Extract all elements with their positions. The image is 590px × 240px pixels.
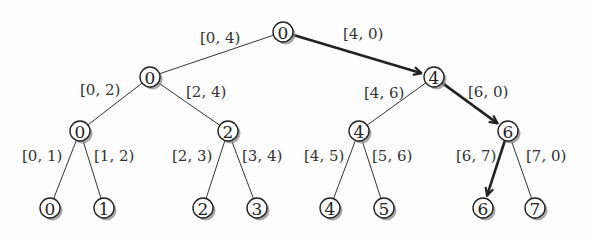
tree-node: 4	[320, 198, 343, 221]
node-label: 0	[45, 199, 56, 219]
node-label: 7	[530, 199, 541, 219]
tree-node: 7	[525, 198, 548, 221]
tree-node: 6	[473, 198, 496, 221]
node-label: 6	[478, 199, 489, 219]
edges-layer	[54, 35, 532, 199]
nodes-layer: 004024601234567	[40, 22, 548, 221]
edge-interval-label: [2, 3)	[172, 147, 212, 165]
node-label: 0	[75, 122, 86, 142]
tree-node: 3	[247, 198, 270, 221]
tree-node: 0	[273, 22, 296, 45]
edge-interval-label: [4, 6)	[364, 84, 404, 102]
node-label: 4	[325, 199, 336, 219]
edge-interval-label: [4, 5)	[304, 147, 344, 165]
edge-interval-label: [5, 6)	[372, 147, 412, 165]
tree-node: 0	[140, 67, 163, 90]
node-label: 4	[354, 122, 365, 142]
tree-node: 6	[498, 121, 521, 144]
node-label: 6	[503, 122, 514, 142]
node-label: 2	[223, 122, 234, 142]
edge-labels-layer: [0, 4)[4, 0)[0, 2)[2, 4)[4, 6)[6, 0)[0, …	[22, 25, 566, 165]
edge-interval-label: [1, 2)	[94, 147, 134, 165]
tree-node: 2	[193, 198, 216, 221]
edge-interval-label: [0, 4)	[200, 29, 240, 47]
edge-interval-label: [4, 0)	[343, 25, 383, 43]
edge-interval-label: [7, 0)	[526, 147, 566, 165]
node-label: 3	[252, 199, 263, 219]
node-label: 0	[278, 23, 289, 43]
node-label: 0	[145, 68, 156, 88]
node-label: 1	[99, 199, 110, 219]
node-label: 2	[198, 199, 209, 219]
tree-diagram: [0, 4)[4, 0)[0, 2)[2, 4)[4, 6)[6, 0)[0, …	[0, 0, 590, 240]
node-label: 5	[379, 199, 390, 219]
edge-interval-label: [2, 4)	[186, 83, 226, 101]
tree-canvas: [0, 4)[4, 0)[0, 2)[2, 4)[4, 6)[6, 0)[0, …	[0, 0, 590, 240]
edge-interval-label: [3, 4)	[242, 147, 282, 165]
edge-interval-label: [0, 1)	[22, 147, 62, 165]
edge-interval-label: [0, 2)	[80, 81, 120, 99]
tree-node: 2	[218, 121, 241, 144]
tree-node: 0	[40, 198, 63, 221]
node-label: 4	[429, 68, 440, 88]
tree-node: 5	[374, 198, 397, 221]
edge-interval-label: [6, 7)	[456, 147, 496, 165]
edge-interval-label: [6, 0)	[468, 83, 508, 101]
tree-node: 1	[94, 198, 117, 221]
tree-node: 4	[424, 67, 447, 90]
